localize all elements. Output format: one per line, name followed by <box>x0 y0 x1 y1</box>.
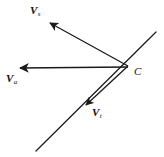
diagram-canvas <box>0 0 164 157</box>
vector-diagram: Vs Va Vt C <box>0 0 164 157</box>
vector-vt-subscript: t <box>100 112 102 120</box>
diagonal-line <box>36 32 156 151</box>
vector-va-symbol: V <box>6 72 13 84</box>
vector-vs-symbol: V <box>30 4 37 16</box>
point-c-label: C <box>134 66 141 77</box>
vector-vt-symbol: V <box>92 106 99 118</box>
vector-vs-label: Vs <box>30 5 41 18</box>
vector-vt-arrow <box>86 66 128 105</box>
vector-vt-label: Vt <box>92 107 102 120</box>
vector-vs-arrow <box>50 23 128 66</box>
vector-va-subscript: a <box>14 78 18 86</box>
vector-va-label: Va <box>6 73 17 86</box>
vector-vs-subscript: s <box>38 10 41 18</box>
vector-va-arrow <box>20 67 128 68</box>
